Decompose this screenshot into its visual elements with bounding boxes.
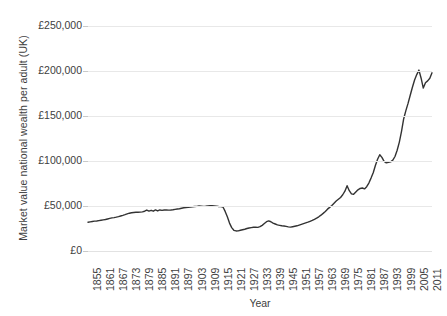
x-axis-tick-label: 1915 xyxy=(223,268,234,291)
x-axis-tick-label: 1879 xyxy=(144,268,155,291)
x-axis-tick-label: 1921 xyxy=(236,268,247,291)
x-axis-tick-label: 1951 xyxy=(301,268,312,291)
gridline xyxy=(88,71,432,72)
x-axis-tick-label: 1897 xyxy=(183,268,194,291)
chart-container: Market value national wealth per adult (… xyxy=(0,0,447,316)
gridline xyxy=(88,26,432,27)
x-axis-tick-label: 1939 xyxy=(275,268,286,291)
x-axis-tick-label: 1891 xyxy=(170,268,181,291)
x-axis-tick-label: 1855 xyxy=(92,268,103,291)
y-axis-tick-label: £100,000 xyxy=(14,155,82,166)
x-axis-tick-label: 1987 xyxy=(379,268,390,291)
plot-area xyxy=(88,26,432,251)
data-line-series xyxy=(88,26,432,251)
gridline xyxy=(88,206,432,207)
x-axis-tick-label: 1903 xyxy=(197,268,208,291)
x-axis-tick-label: 1963 xyxy=(327,268,338,291)
x-axis-tick-label: 1927 xyxy=(249,268,260,291)
x-axis-tick-labels: 1855186118671873187918851891189719031909… xyxy=(88,253,432,293)
x-axis-tick-label: 1885 xyxy=(157,268,168,291)
x-axis-tick-label: 2011 xyxy=(432,268,443,291)
y-axis-tick-labels: £250,000£200,000£150,000£100,000£50,000£… xyxy=(14,0,82,316)
x-axis-tick-label: 1909 xyxy=(210,268,221,291)
y-axis-tick-label: £50,000 xyxy=(14,200,82,211)
y-axis-tick-label: £150,000 xyxy=(14,110,82,121)
x-axis-tick-label: 1981 xyxy=(366,268,377,291)
gridline xyxy=(88,161,432,162)
x-axis-tick-label: 1945 xyxy=(288,268,299,291)
x-axis-tick-label: 1969 xyxy=(340,268,351,291)
x-axis-title: Year xyxy=(88,297,432,309)
y-axis-tick-label: £250,000 xyxy=(14,20,82,31)
x-axis-line xyxy=(88,251,432,252)
x-axis-tick-label: 1993 xyxy=(392,268,403,291)
x-axis-tick-label: 1933 xyxy=(262,268,273,291)
y-axis-tick-label: £200,000 xyxy=(14,65,82,76)
x-axis-tick-label: 1999 xyxy=(406,268,417,291)
x-axis-tick-label: 1873 xyxy=(131,268,142,291)
x-axis-tick-label: 2005 xyxy=(419,268,430,291)
y-axis-tick-label: £0 xyxy=(14,245,82,256)
x-axis-tick-label: 1867 xyxy=(118,268,129,291)
x-axis-tick-label: 1957 xyxy=(314,268,325,291)
x-axis-tick-label: 1861 xyxy=(105,268,116,291)
x-axis-tick-label: 1975 xyxy=(353,268,364,291)
gridline xyxy=(88,116,432,117)
